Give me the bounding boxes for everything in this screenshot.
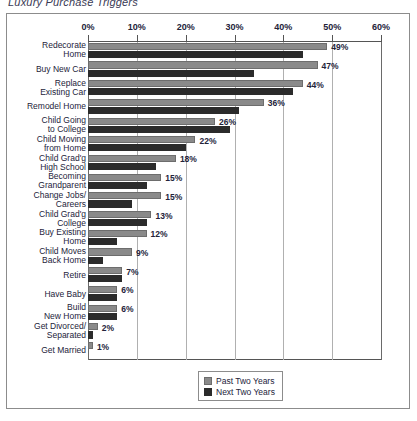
bar-value-label: 13% [155,211,172,221]
bar-row: Child Grad'gCollege13% [0,209,417,228]
bar-value-label: 44% [307,80,324,90]
bar-rows: RedecorateHome49%Buy New Car47%ReplaceEx… [0,41,417,359]
bar-value-label: 15% [165,192,182,202]
bar-past-two-years [88,174,161,181]
category-label: Get Married [2,345,86,354]
category-label: Child Goingto College [2,116,86,134]
bar-next-two-years [88,107,239,114]
bar-next-two-years [88,238,117,245]
bar-value-label: 2% [102,323,114,333]
bar-value-label: 36% [268,98,285,108]
legend-item-next: Next Two Years [204,386,275,397]
bar-next-two-years [88,294,117,301]
legend-swatch-next-icon [204,388,212,396]
bar-value-label: 15% [165,173,182,183]
category-label: BuildNew Home [2,303,86,321]
bar-value-label: 6% [121,285,133,295]
bar-past-two-years [88,155,176,162]
bar-next-two-years [88,182,147,189]
bar-past-two-years [88,305,117,312]
bar-value-label: 22% [199,136,216,146]
bar-value-label: 12% [151,229,168,239]
legend-item-past: Past Two Years [204,375,275,386]
bar-next-two-years [88,51,303,58]
bar-row: Child MovesBack Home9% [0,247,417,266]
bar-next-two-years [88,257,103,264]
category-label: Retire [2,270,86,279]
x-axis-tick-label: 0% [81,22,94,32]
bar-value-label: 1% [97,342,109,352]
x-axis-tick-label: 30% [225,22,243,32]
bar-past-two-years [88,342,93,349]
bar-row: RedecorateHome49% [0,41,417,60]
chart-title: Luxury Purchase Triggers [8,0,138,8]
x-axis-tick-label: 60% [372,22,390,32]
category-label: Remodel Home [2,102,86,111]
x-axis-tick-label: 50% [323,22,341,32]
bar-next-two-years [88,200,132,207]
x-axis-tick-label: 20% [177,22,195,32]
bar-next-two-years [88,331,93,338]
bar-row: Retire7% [0,265,417,284]
category-label: Buy New Car [2,65,86,74]
bar-row: Child Grad'gHigh School18% [0,153,417,172]
category-label: BecomingGrandparent [2,172,86,190]
bar-past-two-years [88,118,215,125]
bar-past-two-years [88,61,318,68]
bar-past-two-years [88,211,151,218]
legend-label-past: Past Two Years [216,376,274,386]
bar-row: Get Divorced/Separated2% [0,322,417,341]
bar-value-label: 47% [322,61,339,71]
bar-value-label: 9% [136,248,148,258]
bar-next-two-years [88,70,254,77]
bar-past-two-years [88,230,147,237]
category-label: Child Grad'gCollege [2,210,86,228]
bar-value-label: 18% [180,154,197,164]
bar-row: Have Baby6% [0,284,417,303]
category-label: RedecorateHome [2,41,86,59]
bar-row: Child Goingto College26% [0,116,417,135]
bar-row: Remodel Home36% [0,97,417,116]
bar-next-two-years [88,275,122,282]
category-label: Have Baby [2,289,86,298]
bar-past-two-years [88,248,132,255]
legend-swatch-past-icon [204,377,212,385]
bar-next-two-years [88,219,147,226]
bar-row: ReplaceExisting Car44% [0,78,417,97]
x-axis-tick-label: 40% [274,22,292,32]
bar-next-two-years [88,144,186,151]
category-label: Buy ExistingHome [2,228,86,246]
bar-next-two-years [88,163,156,170]
bar-row: Get Married1% [0,340,417,359]
bar-past-two-years [88,192,161,199]
chart-legend: Past Two Years Next Two Years [198,371,283,401]
category-label: Child Movingfrom Home [2,135,86,153]
bar-value-label: 6% [121,304,133,314]
bar-next-two-years [88,126,230,133]
bar-row: Buy New Car47% [0,60,417,79]
bar-row: BecomingGrandparent15% [0,172,417,191]
bar-row: Buy ExistingHome12% [0,228,417,247]
bar-past-two-years [88,136,195,143]
bar-past-two-years [88,99,264,106]
category-label: ReplaceExisting Car [2,79,86,97]
bar-row: BuildNew Home6% [0,303,417,322]
legend-label-next: Next Two Years [216,387,275,397]
bar-value-label: 7% [126,267,138,277]
category-label: Child Grad'gHigh School [2,154,86,172]
bar-row: Change Jobs/Careers15% [0,191,417,210]
chart-page: Luxury Purchase Triggers 0%10%20%30%40%5… [0,0,417,421]
bar-value-label: 26% [219,117,236,127]
category-label: Get Divorced/Separated [2,322,86,340]
x-axis-tick-label: 10% [128,22,146,32]
category-label: Change Jobs/Careers [2,191,86,209]
bar-past-two-years [88,286,117,293]
bar-past-two-years [88,323,98,330]
bar-next-two-years [88,313,117,320]
bar-row: Child Movingfrom Home22% [0,135,417,154]
category-label: Child MovesBack Home [2,247,86,265]
bar-next-two-years [88,88,293,95]
bar-past-two-years [88,43,327,50]
bar-value-label: 49% [331,42,348,52]
bar-past-two-years [88,267,122,274]
